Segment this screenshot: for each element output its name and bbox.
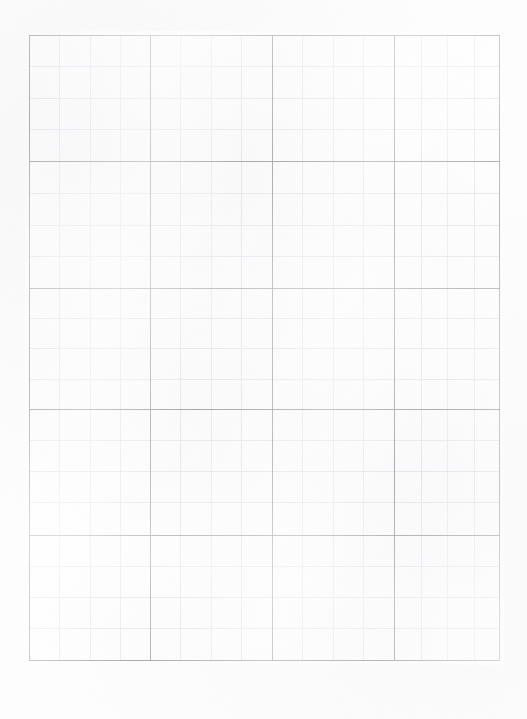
major-gridline-horizontal (29, 161, 500, 162)
minor-gridline-vertical (241, 35, 242, 661)
minor-gridline-horizontal (29, 225, 500, 226)
minor-gridline-horizontal (29, 440, 500, 441)
minor-gridline-horizontal (29, 98, 500, 99)
minor-gridline-horizontal (29, 471, 500, 472)
major-gridlines (29, 35, 500, 661)
major-gridline-vertical (29, 35, 30, 661)
minor-gridline-vertical (90, 35, 91, 661)
minor-gridline-vertical (333, 35, 334, 661)
minor-gridline-horizontal (29, 193, 500, 194)
minor-gridline-vertical (363, 35, 364, 661)
minor-gridline-horizontal (29, 379, 500, 380)
major-gridline-vertical (499, 35, 500, 661)
graph-paper-grid (29, 35, 500, 661)
minor-gridlines (29, 35, 500, 661)
minor-gridline-horizontal (29, 597, 500, 598)
minor-gridline-vertical (447, 35, 448, 661)
minor-gridline-horizontal (29, 129, 500, 130)
major-gridline-horizontal (29, 288, 500, 289)
minor-gridline-vertical (421, 35, 422, 661)
minor-gridline-horizontal (29, 256, 500, 257)
minor-gridline-horizontal (29, 628, 500, 629)
major-gridline-vertical (272, 35, 273, 661)
minor-gridline-vertical (120, 35, 121, 661)
major-gridline-vertical (150, 35, 151, 661)
minor-gridline-vertical (302, 35, 303, 661)
minor-gridline-horizontal (29, 502, 500, 503)
minor-gridline-vertical (211, 35, 212, 661)
major-gridline-horizontal (29, 409, 500, 410)
minor-gridline-horizontal (29, 318, 500, 319)
minor-gridline-vertical (59, 35, 60, 661)
minor-gridline-vertical (474, 35, 475, 661)
major-gridline-horizontal (29, 660, 500, 661)
minor-gridline-horizontal (29, 66, 500, 67)
scanned-page (0, 0, 527, 719)
minor-gridline-horizontal (29, 348, 500, 349)
major-gridline-vertical (394, 35, 395, 661)
minor-gridline-horizontal (29, 566, 500, 567)
major-gridline-horizontal (29, 35, 500, 36)
major-gridline-horizontal (29, 535, 500, 536)
minor-gridline-vertical (180, 35, 181, 661)
scan-ink-fade (25, 31, 504, 665)
